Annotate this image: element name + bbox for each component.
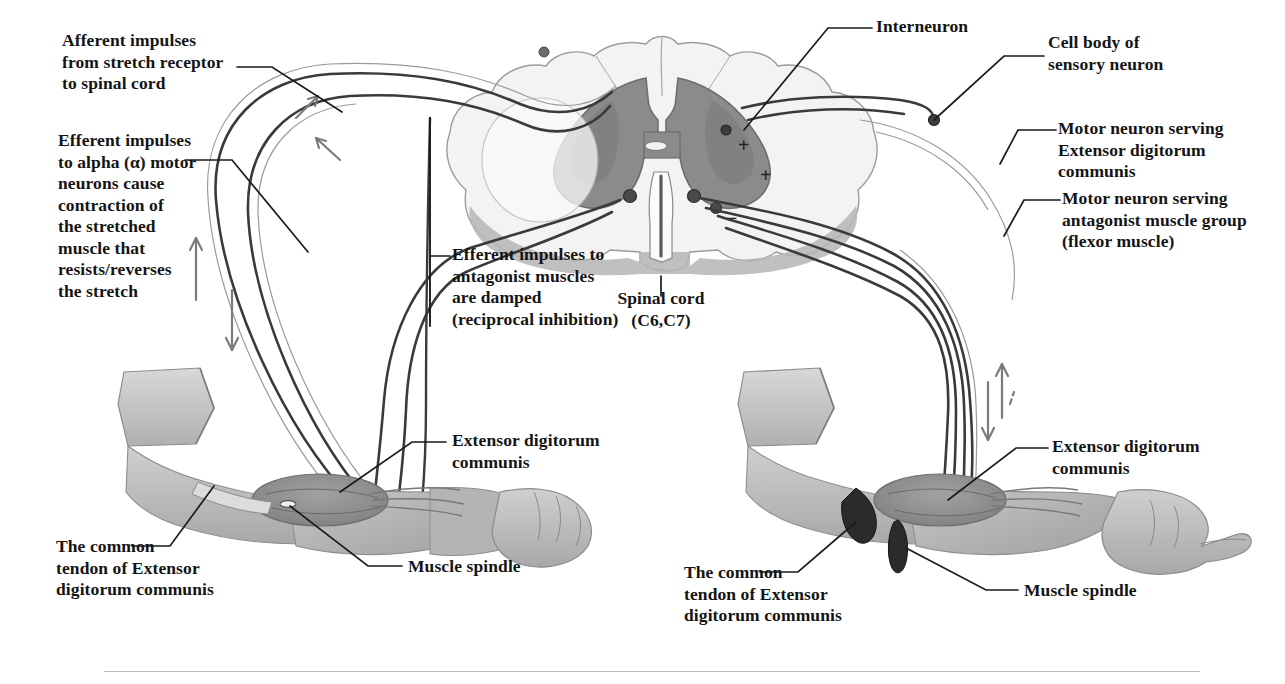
- motor-neuron-soma-right: [688, 190, 701, 203]
- label-afferent-impulses: Afferent impulses from stretch receptor …: [62, 30, 223, 95]
- plus-sign-upper: +: [738, 134, 749, 156]
- leader-efferent-alpha: [185, 160, 308, 252]
- arrow-down-efferent-right: [982, 382, 994, 440]
- arrow-up-afferent-right: [996, 364, 1008, 418]
- label-cell-body-sensory-neuron: Cell body of sensory neuron: [1048, 32, 1163, 75]
- label-motor-neuron-edc: Motor neuron serving Extensor digitorum …: [1058, 118, 1224, 183]
- arrow-tick-right: [1010, 392, 1014, 404]
- label-edc-left: Extensor digitorum communis: [452, 430, 600, 473]
- motor-neuron-soma-left: [624, 190, 637, 203]
- pointing-hand-right: [1102, 490, 1251, 575]
- leader-motor-neuron-edc: [1000, 130, 1056, 164]
- nerve-outline-ghosts-right: [860, 120, 1014, 506]
- label-tendon-right: The common tendon of Extensor digitorum …: [684, 562, 842, 627]
- label-efferent-alpha: Efferent impulses to alpha (α) motor neu…: [58, 130, 196, 302]
- sensory-cell-body-node-left: [539, 47, 549, 57]
- bottom-divider: [104, 671, 1200, 672]
- arrow-down-efferent-1: [316, 138, 340, 160]
- leader-cell-body: [934, 56, 1044, 120]
- muscle-spindle-left: [280, 501, 296, 508]
- extensor-digitorum-communis-muscle-right: [874, 474, 1006, 526]
- spinal-cord-cross-section: [447, 37, 877, 276]
- leader-motor-neuron-antagonist: [1004, 200, 1060, 236]
- plus-sign-lower: +: [760, 164, 771, 186]
- label-motor-neuron-antagonist: Motor neuron serving antagonist muscle g…: [1062, 188, 1247, 253]
- label-spinal-cord: Spinal cord (C6,C7): [604, 288, 718, 331]
- label-interneuron: Interneuron: [876, 16, 968, 38]
- label-efferent-antagonist: Efferent impulses to antagonist muscles …: [452, 244, 618, 330]
- label-muscle-spindle-right: Muscle spindle: [1024, 580, 1137, 602]
- arrow-up-afferent-1: [296, 96, 318, 118]
- label-tendon-left: The common tendon of Extensor digitorum …: [56, 536, 214, 601]
- label-edc-right: Extensor digitorum communis: [1052, 436, 1200, 479]
- interneuron-soma: [721, 125, 731, 135]
- extensor-digitorum-communis-muscle-left: [252, 474, 388, 526]
- figure-canvas: + + −: [0, 0, 1285, 684]
- label-muscle-spindle-left: Muscle spindle: [408, 556, 521, 578]
